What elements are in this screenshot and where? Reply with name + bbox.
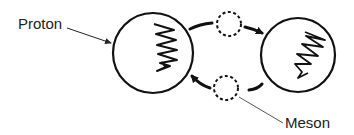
exchange-arrow-bottom-left-icon (192, 76, 210, 88)
quark-scribble-right-icon (295, 32, 325, 78)
exchange-arc-bottom-right (249, 84, 262, 90)
meson-label: Meson (285, 114, 330, 131)
proton-left (113, 13, 193, 93)
proton-leader-line (67, 28, 111, 43)
proton-meson-diagram: Proton Meson (0, 0, 354, 135)
meson-bottom (214, 76, 238, 100)
exchange-arc-top-left (190, 23, 212, 29)
proton-label: Proton (18, 15, 62, 32)
meson-top (217, 12, 241, 36)
exchange-arrow-top-right-icon (245, 27, 262, 33)
quark-scribble-left-icon (154, 24, 177, 71)
proton-left-circle (113, 13, 193, 93)
proton-right (261, 18, 335, 92)
meson-leader-line (239, 97, 283, 123)
